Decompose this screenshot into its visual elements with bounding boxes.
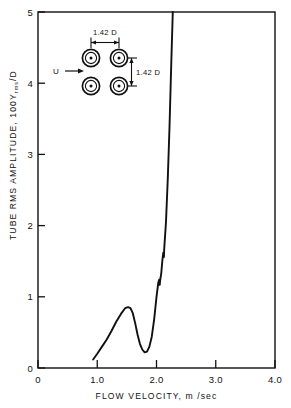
x-tick-label-4: 4.0: [268, 374, 282, 385]
x-tick-label-3: 3.0: [209, 374, 223, 385]
x-tick-label-0: 0: [35, 374, 40, 385]
inset-tube-bottom-left: [82, 77, 99, 94]
inset-tube-bottom-right: [110, 77, 127, 94]
plot-frame: [38, 12, 275, 368]
y-axis-title: TUBE RMS AMPLITUDE, 100Yrms/D: [8, 70, 19, 240]
svg-text:TUBE RMS AMPLITUDE, 100Yrms: TUBE RMS AMPLITUDE, 100Yrms/D: [8, 70, 19, 240]
inset-tube-top-right: [110, 49, 127, 66]
tube-vibration-chart: 0 1 2 3 4 5 0 1.0 2.0 3.0 4.0 FLOW VELOC…: [0, 0, 291, 408]
inset-horizontal-pitch-label: 1.42 D: [93, 28, 117, 37]
y-tick-label-5: 5: [28, 7, 33, 18]
y-tick-label-2: 2: [28, 220, 33, 231]
x-axis-title: FLOW VELOCITY, m /sec: [96, 391, 218, 401]
y-tick-labels: 0 1 2 3 4 5: [28, 7, 33, 374]
x-tick-labels: 0 1.0 2.0 3.0 4.0: [35, 374, 282, 385]
y-axis-title-sub: rms: [13, 81, 19, 93]
figure-container: 0 1 2 3 4 5 0 1.0 2.0 3.0 4.0 FLOW VELOC…: [0, 0, 291, 408]
y-axis-title-tail: /D: [8, 70, 18, 81]
x-tick-label-2: 2.0: [150, 374, 164, 385]
y-tick-label-0: 0: [28, 363, 33, 374]
inset-vertical-pitch-label: 1.42 D: [136, 68, 160, 77]
inset-flow-label: U: [53, 67, 59, 76]
x-tick-label-1: 1.0: [90, 374, 104, 385]
y-tick-label-1: 1: [28, 291, 33, 302]
inset-tube-top-left: [82, 49, 99, 66]
y-axis-title-main: TUBE RMS AMPLITUDE, 100Y: [8, 93, 18, 240]
y-tick-label-4: 4: [28, 78, 33, 89]
y-tick-label-3: 3: [28, 149, 33, 160]
